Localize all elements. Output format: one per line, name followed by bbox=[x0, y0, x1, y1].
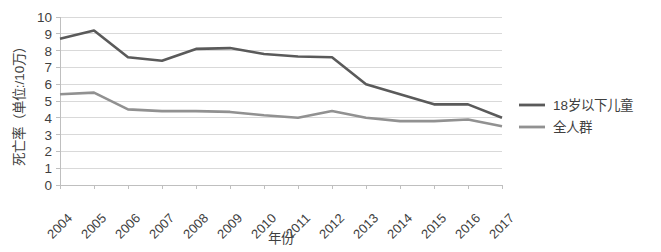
y-tick-label: 2 bbox=[44, 144, 52, 159]
x-tick-label: 2006 bbox=[112, 211, 143, 242]
chart-canvas: 109876543210 200420052006200720082009201… bbox=[0, 0, 661, 252]
legend-label: 18岁以下儿童 bbox=[553, 97, 633, 113]
x-tick-label: 2015 bbox=[418, 211, 449, 242]
y-tick-label: 8 bbox=[44, 44, 52, 59]
line-chart: 109876543210 200420052006200720082009201… bbox=[0, 0, 661, 252]
x-tick-label: 2016 bbox=[452, 211, 483, 242]
x-tick-label: 2007 bbox=[146, 211, 177, 242]
x-tick-label: 2009 bbox=[214, 211, 245, 242]
data-series bbox=[60, 30, 502, 126]
y-axis: 109876543210 bbox=[37, 10, 60, 193]
y-tick-label: 1 bbox=[44, 161, 52, 176]
y-tick-label: 3 bbox=[44, 128, 52, 143]
y-tick-label: 5 bbox=[44, 94, 52, 109]
x-tick-label: 2005 bbox=[78, 211, 109, 242]
y-tick-label: 10 bbox=[37, 10, 52, 25]
legend: 18岁以下儿童全人群 bbox=[519, 97, 633, 135]
x-tick-label: 2004 bbox=[44, 211, 75, 242]
y-tick-label: 6 bbox=[44, 77, 52, 92]
x-tick-label: 2012 bbox=[316, 211, 347, 242]
y-axis-title: 死亡率（单位:/10万） bbox=[11, 40, 27, 167]
legend-label: 全人群 bbox=[553, 119, 593, 135]
series-line bbox=[60, 30, 502, 117]
x-tick-label: 2013 bbox=[350, 211, 381, 242]
x-tick-label: 2017 bbox=[486, 211, 517, 242]
series-line bbox=[60, 93, 502, 127]
y-tick-label: 9 bbox=[44, 27, 52, 42]
y-axis-title-text: 死亡率（单位:/10万） bbox=[11, 40, 27, 167]
x-axis-title: 年份 bbox=[268, 231, 295, 246]
y-tick-label: 0 bbox=[44, 178, 52, 193]
x-tick-label: 2014 bbox=[384, 211, 415, 242]
y-tick-label: 4 bbox=[44, 111, 52, 126]
x-tick-label: 2008 bbox=[180, 211, 211, 242]
gridlines bbox=[60, 17, 502, 185]
y-tick-label: 7 bbox=[44, 60, 52, 75]
x-axis-title-text: 年份 bbox=[268, 231, 295, 246]
